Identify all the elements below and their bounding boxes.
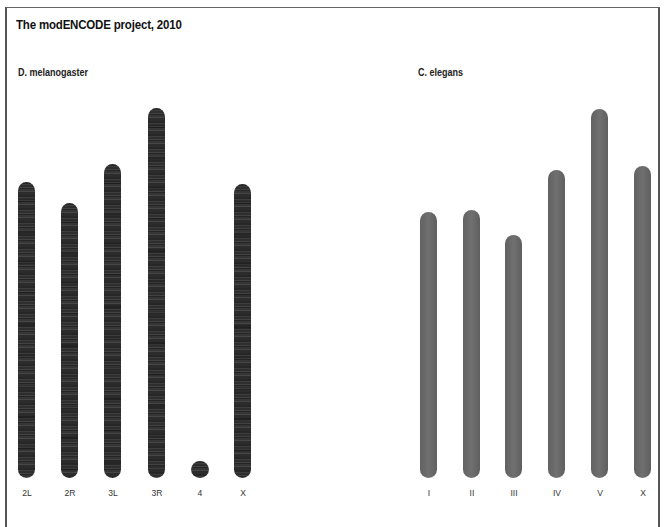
chromosome-cel-v	[591, 109, 608, 478]
chromosome-dmel-4	[191, 461, 209, 478]
panel-label-elegans: C. elegans	[418, 67, 463, 78]
chromosome-label: 2L	[13, 487, 40, 498]
chromosome-label: X	[629, 487, 656, 498]
chromosome-dmel-x	[234, 184, 251, 478]
chromosome-cel-iii	[505, 235, 522, 478]
chromosome-label: 2R	[56, 487, 83, 498]
chromosome-label: 3L	[99, 487, 126, 498]
chromosome-cel-x	[634, 166, 651, 478]
chromosome-cel-ii	[463, 210, 480, 478]
chromosome-dmel-2r	[61, 203, 78, 478]
chromosome-label: V	[586, 487, 613, 498]
chromosome-label: 3R	[143, 487, 170, 498]
chromosome-dmel-3r	[148, 108, 165, 478]
panel-label-melanogaster: D. melanogaster	[18, 67, 88, 78]
chromosome-label: X	[229, 487, 256, 498]
chromosome-label: III	[500, 487, 527, 498]
chromosome-cel-iv	[548, 170, 565, 478]
chromosome-dmel-3l	[104, 164, 121, 478]
chromosome-label: IV	[543, 487, 570, 498]
chromosome-dmel-2l	[18, 182, 35, 478]
chromosome-label: I	[415, 487, 442, 498]
figure-title: The modENCODE project, 2010	[16, 18, 182, 32]
chromosome-label: 4	[186, 487, 213, 498]
chromosome-cel-i	[420, 212, 437, 478]
chromosome-label: II	[458, 487, 485, 498]
